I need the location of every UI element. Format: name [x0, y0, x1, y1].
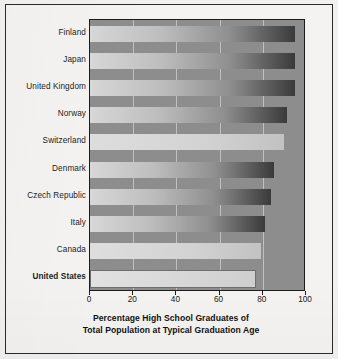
bar-fill: [90, 53, 295, 69]
x-tick-label-40: 40: [171, 296, 180, 304]
bar-czech-republic: [90, 189, 271, 205]
bar-finland: [90, 26, 295, 42]
category-axis-labels: FinlandJapanUnited KingdomNorwaySwitzerl…: [10, 19, 86, 291]
category-label-switzerland: Switzerland: [10, 137, 86, 145]
category-label-czech-republic: Czech Republic: [10, 192, 86, 200]
bar-norway: [90, 107, 287, 123]
bar-fill: [90, 162, 274, 178]
chart-figure: FinlandJapanUnited KingdomNorwaySwitzerl…: [0, 0, 338, 359]
plot-area: [89, 19, 305, 291]
bar-fill: [91, 271, 255, 287]
bar-italy: [90, 216, 265, 232]
x-axis-line: [89, 290, 305, 291]
bar-united-states: [90, 270, 256, 288]
category-label-united-states: United States: [10, 273, 86, 281]
x-tick-label-100: 100: [298, 296, 312, 304]
bar-fill: [90, 243, 261, 259]
x-axis-title-line-2: Total Population at Typical Graduation A…: [14, 325, 328, 337]
bar-fill: [90, 26, 295, 42]
bar-switzerland: [90, 134, 284, 150]
x-tick-label-0: 0: [87, 296, 92, 304]
x-tick-label-80: 80: [257, 296, 266, 304]
category-label-norway: Norway: [10, 110, 86, 118]
category-label-japan: Japan: [10, 56, 86, 64]
bar-denmark: [90, 162, 274, 178]
bar-united-kingdom: [90, 80, 295, 96]
x-tick-label-20: 20: [128, 296, 137, 304]
x-axis-title: Percentage High School Graduates of Tota…: [14, 313, 328, 336]
category-label-finland: Finland: [10, 29, 86, 37]
category-label-united-kingdom: United Kingdom: [10, 83, 86, 91]
bar-fill: [90, 107, 287, 123]
bar-canada: [90, 243, 261, 259]
bar-fill: [90, 189, 271, 205]
category-label-canada: Canada: [10, 246, 86, 254]
category-label-italy: Italy: [10, 219, 86, 227]
bar-fill: [90, 134, 284, 150]
bar-japan: [90, 53, 295, 69]
x-axis-title-line-1: Percentage High School Graduates of: [14, 313, 328, 325]
category-label-denmark: Denmark: [10, 165, 86, 173]
x-tick-label-60: 60: [214, 296, 223, 304]
bar-fill: [90, 216, 265, 232]
bar-fill: [90, 80, 295, 96]
